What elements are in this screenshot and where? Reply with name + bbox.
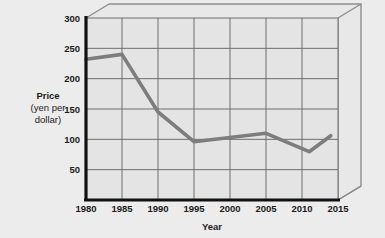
x-axis-title: Year [202,221,222,232]
x-tick-1990: 1990 [147,203,168,214]
y-axis-title-main: Price [36,90,59,101]
x-tick-2000: 2000 [219,203,240,214]
y-tick-300: 300 [64,13,80,24]
y-tick-150: 150 [64,104,80,115]
y-tick-50: 50 [69,164,80,175]
x-tick-2005: 2005 [255,203,277,214]
x-tick-1980: 1980 [75,203,96,214]
x-tick-1995: 1995 [183,203,205,214]
x-tick-2010: 2010 [291,203,312,214]
y-tick-100: 100 [64,134,80,145]
x-tick-1985: 1985 [111,203,133,214]
y-axis-title-sub-1: (yen per [31,102,66,113]
y-tick-200: 200 [64,73,80,84]
x-tick-2015: 2015 [327,203,349,214]
y-tick-250: 250 [64,43,80,54]
y-axis-title-sub-2: dollar) [35,114,61,125]
line-chart: 300 250 200 150 100 50 1980 1985 1990 19… [0,0,385,238]
chart-canvas: 300 250 200 150 100 50 1980 1985 1990 19… [0,0,385,238]
